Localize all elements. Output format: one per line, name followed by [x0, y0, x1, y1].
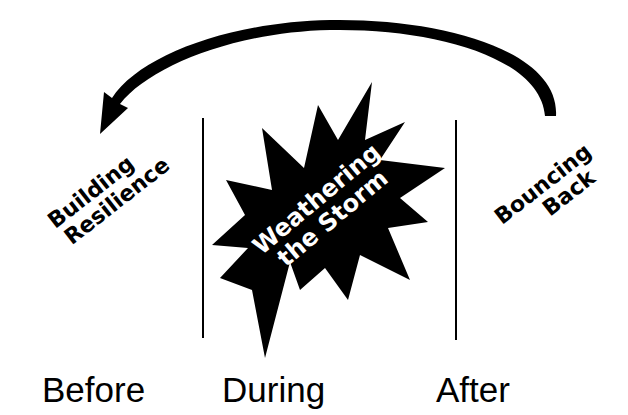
- phase-label-before: Before: [42, 372, 145, 407]
- phase-label-during: During: [222, 372, 325, 407]
- resilience-cycle-diagram: Building Resilience Weathering the Storm…: [0, 0, 628, 415]
- phase-label-after: After: [436, 372, 510, 407]
- cycle-arrow-icon: [100, 20, 556, 134]
